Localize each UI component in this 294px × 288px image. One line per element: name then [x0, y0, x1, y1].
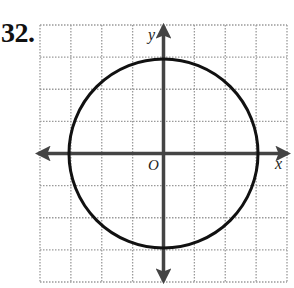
x-axis-label: x: [274, 155, 282, 172]
origin-label: O: [148, 157, 159, 173]
coordinate-graph: O x y: [0, 0, 294, 288]
axes: [38, 26, 288, 281]
y-axis-label: y: [146, 26, 156, 44]
